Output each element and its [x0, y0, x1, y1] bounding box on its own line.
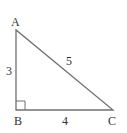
side-label-ac: 5 — [66, 54, 72, 68]
vertex-label-a: A — [11, 15, 20, 29]
right-triangle-diagram: A B C 3 4 5 — [0, 0, 127, 133]
side-label-bc: 4 — [62, 114, 68, 128]
vertex-label-c: C — [108, 114, 116, 128]
right-angle-marker — [16, 101, 25, 110]
triangle-abc — [16, 30, 113, 110]
vertex-label-b: B — [14, 114, 22, 128]
side-label-ab: 3 — [6, 64, 12, 78]
